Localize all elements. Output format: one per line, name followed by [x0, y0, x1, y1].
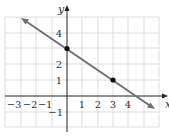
svg-text:4: 4 — [56, 28, 62, 39]
svg-text:−3: −3 — [7, 99, 22, 110]
svg-text:−2: −2 — [23, 99, 38, 110]
point-0-3 — [64, 46, 69, 51]
svg-text:1: 1 — [79, 99, 85, 110]
svg-text:2: 2 — [56, 59, 62, 70]
svg-text:1: 1 — [56, 75, 62, 86]
svg-text:3: 3 — [110, 99, 116, 110]
data-line — [21, 18, 155, 109]
x-tick-labels: −3 −2 −1 1 2 3 4 — [7, 99, 132, 110]
y-axis-label: y — [57, 3, 65, 16]
y-axis-arrow-icon — [65, 5, 70, 11]
grid — [5, 17, 159, 127]
svg-text:4: 4 — [125, 99, 131, 110]
x-axis-label: x — [165, 98, 169, 111]
coordinate-plane: y x −3 −2 −1 1 2 3 4 4 2 1 −1 — [0, 0, 169, 139]
svg-text:2: 2 — [95, 99, 101, 110]
point-3-1 — [110, 77, 115, 82]
svg-text:−1: −1 — [48, 107, 63, 118]
